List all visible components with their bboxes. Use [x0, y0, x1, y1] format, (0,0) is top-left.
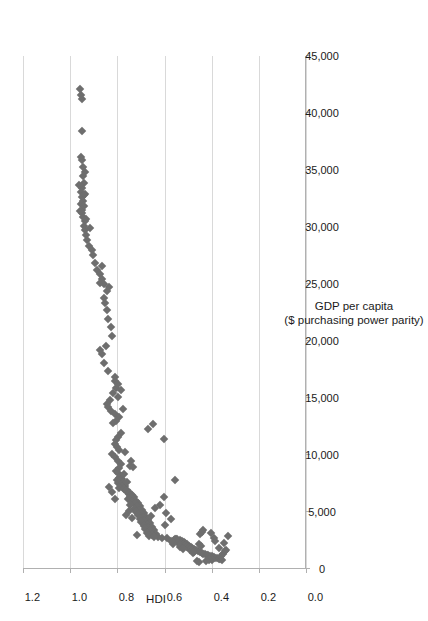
data-point — [78, 127, 86, 135]
data-point — [121, 448, 129, 456]
data-point — [166, 515, 174, 523]
y-axis-title: HDI — [126, 593, 186, 605]
y-tick — [212, 569, 213, 573]
x-tick-label: 40,000 — [305, 107, 339, 119]
x-axis-title: GDP per capita ($ purchasing power parit… — [98, 299, 428, 327]
data-point — [132, 531, 140, 539]
y-tick-label: 1.0 — [51, 591, 87, 603]
gridline — [70, 56, 71, 569]
x-tick-label: 10,000 — [305, 449, 339, 461]
data-point — [171, 476, 179, 484]
x-axis-title-line2: ($ purchasing power parity) — [98, 313, 428, 327]
x-tick-label: 25,000 — [305, 278, 339, 290]
y-tick — [165, 569, 166, 573]
y-tick-label: 0.2 — [240, 591, 276, 603]
x-tick-label: 5,000 — [308, 506, 336, 518]
x-tick-label: 30,000 — [305, 221, 339, 233]
gridline — [23, 56, 24, 569]
y-tick — [306, 569, 307, 573]
y-tick-label: 0.0 — [287, 591, 323, 603]
data-point — [160, 435, 168, 443]
data-point — [119, 405, 127, 413]
x-tick-label: 20,000 — [305, 335, 339, 347]
y-tick-label: 0.4 — [193, 591, 229, 603]
data-point — [108, 332, 116, 340]
data-point — [103, 366, 111, 374]
y-tick — [70, 569, 71, 573]
x-axis-title-line1: GDP per capita — [98, 299, 428, 313]
x-tick-label: 15,000 — [305, 392, 339, 404]
data-point — [161, 521, 169, 529]
data-point — [160, 492, 168, 500]
y-tick — [117, 569, 118, 573]
x-tick-label: 0 — [319, 563, 325, 575]
y-tick-label: 1.2 — [4, 591, 40, 603]
y-tick — [23, 569, 24, 573]
x-tick-label: 45,000 — [305, 50, 339, 62]
x-tick-label: 35,000 — [305, 164, 339, 176]
y-tick — [259, 569, 260, 573]
